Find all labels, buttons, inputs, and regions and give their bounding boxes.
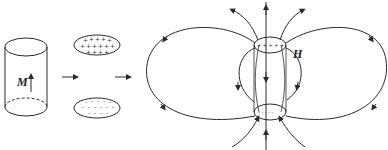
svg-text:-: - <box>109 98 111 105</box>
svg-text:+: + <box>86 48 91 55</box>
svg-text:+: + <box>95 35 100 42</box>
svg-text:+: + <box>80 42 85 49</box>
svg-text:+: + <box>101 35 106 42</box>
svg-text:+: + <box>110 42 115 49</box>
svg-text:-: - <box>85 98 87 105</box>
field-line <box>239 48 255 102</box>
magnetized-cylinder: M <box>5 38 47 116</box>
svg-text:-: - <box>112 103 114 110</box>
svg-text:-: - <box>106 109 108 116</box>
svg-text:+: + <box>89 35 94 42</box>
magnetized-cylinder-diagram: M +++++ ++++++ ++++ ----- ------ ---- + … <box>0 0 388 150</box>
positive-pole-disk: +++++ ++++++ ++++ <box>74 35 120 55</box>
negative-pole-disk: ----- ------ ---- <box>74 97 120 118</box>
field-label: H <box>292 47 303 61</box>
svg-text:-: - <box>103 97 105 104</box>
svg-text:-: - <box>82 103 84 110</box>
svg-text:-: - <box>94 109 96 116</box>
svg-text:-: - <box>100 109 102 116</box>
svg-text:+ + + + +: + + + + + <box>257 42 284 48</box>
svg-text:+: + <box>104 48 109 55</box>
svg-text:-: - <box>97 97 99 104</box>
svg-text:-: - <box>91 97 93 104</box>
svg-text:+: + <box>92 48 97 55</box>
svg-text:+: + <box>98 48 103 55</box>
magnetization-label: M <box>16 75 28 89</box>
svg-text:-: - <box>88 109 90 116</box>
field-line-diagram: + + + + + - - - - - H <box>147 2 387 150</box>
